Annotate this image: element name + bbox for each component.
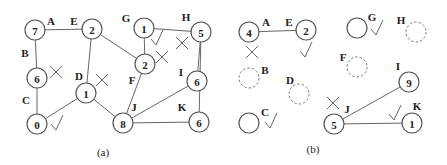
node-label-G: G (368, 11, 377, 23)
edge-panel_b-A-E (259, 30, 296, 31)
edge-panel_a-E-D (87, 39, 91, 83)
node-label-K: K (178, 101, 187, 113)
node-label-A: A (47, 15, 55, 27)
node-value-C: 0 (34, 119, 40, 131)
node-value-J: 8 (120, 118, 126, 130)
node-value-G: 1 (141, 23, 147, 35)
node-label-K: K (413, 100, 422, 112)
node-value-A: 4 (246, 27, 252, 39)
caption-b: (b) (307, 143, 320, 156)
node-value-K: 1 (409, 118, 415, 130)
nodes-layer: 7260121568642951 (25, 18, 426, 134)
node-label-I: I (179, 66, 183, 78)
node-label-H: H (182, 11, 191, 23)
edge-panel_a-E-F (100, 35, 136, 59)
node-value-I: 9 (406, 77, 412, 89)
edge-panel_a-A-E (45, 29, 82, 30)
node-label-E: E (70, 15, 77, 27)
node-label-J: J (344, 103, 350, 115)
node-value-F: 2 (142, 59, 148, 71)
node-panel_b-C (239, 113, 259, 133)
edge-panel_b-J-I (343, 87, 401, 119)
node-panel_b-H (406, 22, 426, 42)
cross-mark-icon (176, 37, 188, 49)
node-value-E: 2 (303, 25, 309, 37)
node-value-J: 5 (331, 119, 337, 131)
node-label-J: J (131, 101, 137, 113)
edge-panel_a-D-C (45, 98, 77, 118)
node-label-F: F (340, 51, 347, 63)
node-panel_b-G (347, 18, 367, 38)
node-label-B: B (21, 47, 29, 59)
node-label-C: C (22, 94, 30, 106)
node-label-D: D (286, 74, 294, 86)
node-panel_b-B (239, 68, 259, 88)
edge-panel_a-G-H (154, 29, 191, 32)
edge-panel_b-J-K (344, 123, 402, 124)
node-value-E: 2 (89, 24, 95, 36)
graph-diagram: 7260121568642951 AEBCDFGHIJKAEGHBFDICJK … (0, 0, 447, 165)
node-value-B: 6 (34, 73, 40, 85)
node-label-F: F (129, 74, 136, 86)
node-value-K: 6 (196, 117, 202, 129)
node-label-H: H (397, 14, 406, 26)
node-value-D: 1 (83, 88, 89, 100)
cross-mark-icon (50, 66, 62, 78)
edge-panel_a-J-K (133, 122, 189, 123)
node-label-E: E (285, 16, 292, 28)
node-panel_b-D (289, 84, 309, 104)
node-label-C: C (261, 106, 269, 118)
node-label-I: I (396, 60, 400, 72)
check-mark-icon (300, 42, 312, 57)
cross-mark-icon (327, 97, 339, 109)
node-label-B: B (261, 64, 269, 76)
node-value-A: 7 (32, 25, 38, 37)
cross-mark-icon (156, 51, 168, 63)
node-label-D: D (75, 70, 83, 82)
cross-mark-icon (246, 46, 258, 58)
check-mark-icon (389, 105, 401, 120)
node-value-I: 6 (194, 76, 200, 88)
check-mark-icon (51, 115, 63, 130)
node-label-G: G (122, 12, 131, 24)
cross-mark-icon (96, 74, 108, 86)
edge-panel_a-D-J (94, 99, 115, 116)
node-label-A: A (262, 16, 270, 28)
node-panel_b-F (347, 57, 367, 77)
edge-panel_a-A-B (35, 40, 36, 68)
caption-a: (a) (97, 146, 110, 159)
node-value-H: 5 (198, 27, 204, 39)
